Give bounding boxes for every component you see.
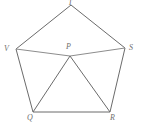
edge-T-S [71,5,125,48]
edge-P-R [70,56,110,112]
edge-T-V [16,5,71,49]
vertex-label-S: S [129,44,133,52]
edge-V-Q [16,49,33,112]
edge-S-R [110,48,125,112]
geometry-figure: T V S Q R P [0,0,141,130]
edge-P-Q [33,56,70,112]
edge-P-S [70,48,125,56]
vertex-label-V: V [4,45,9,53]
vertex-label-R: R [110,114,115,122]
figure-canvas [0,0,141,130]
vertex-label-P: P [66,43,71,51]
vertex-label-Q: Q [27,114,33,122]
vertex-label-T: T [68,0,72,7]
edge-V-P [16,49,70,56]
